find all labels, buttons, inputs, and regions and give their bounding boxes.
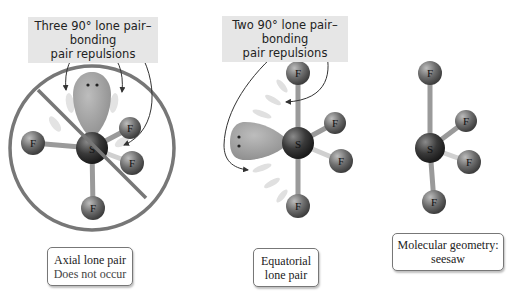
label-line: seesaw (393, 252, 503, 266)
seesaw-label: Molecular geometry: seesaw (392, 233, 504, 271)
seesaw-panel: F S F F F (415, 61, 481, 214)
title-line: Three 90° lone pair–bonding (32, 19, 154, 47)
svg-text:S: S (427, 143, 433, 155)
title-line: pair repulsions (226, 46, 344, 60)
label-line: lone pair (254, 268, 318, 282)
atom-f: F (418, 61, 442, 85)
svg-text:F: F (332, 117, 338, 129)
lone-pair-electron (86, 83, 89, 86)
title-line: pair repulsions (32, 47, 154, 61)
atom-s: S (282, 127, 314, 159)
lone-pair-electron (237, 135, 240, 138)
atom-f: F (455, 110, 477, 132)
svg-text:F: F (466, 156, 472, 168)
equatorial-panel: F S F F F (224, 48, 353, 218)
axial-panel: F S F F F (10, 48, 174, 230)
label-line: Equatorial (254, 254, 318, 268)
label-line: Axial lone pair (48, 253, 132, 267)
atom-s: S (76, 132, 108, 164)
equatorial-label: Equatorial lone pair (253, 248, 319, 287)
atom-s: S (415, 133, 445, 163)
atom-f: F (120, 151, 144, 175)
axial-label: Axial lone pair Does not occur (47, 247, 133, 286)
svg-text:S: S (295, 138, 301, 150)
atom-f: F (422, 190, 446, 214)
svg-text:F: F (463, 115, 469, 127)
lone-pair-lobe (230, 122, 290, 160)
svg-text:F: F (129, 157, 135, 169)
atom-f: F (21, 131, 45, 155)
svg-text:F: F (127, 122, 133, 134)
atom-f: F (81, 196, 105, 220)
svg-text:F: F (338, 155, 344, 167)
equatorial-title: Two 90° lone pair–bonding pair repulsion… (222, 16, 348, 62)
svg-text:F: F (90, 202, 96, 214)
atom-f: F (324, 112, 346, 134)
atom-f: F (329, 149, 353, 173)
axial-title: Three 90° lone pair–bonding pair repulsi… (28, 17, 158, 63)
label-line: Molecular geometry: (393, 238, 503, 252)
label-line: Does not occur (48, 267, 132, 281)
lone-pair-electron (95, 83, 98, 86)
atom-f: F (286, 61, 310, 85)
svg-text:F: F (295, 67, 301, 79)
svg-text:F: F (431, 196, 437, 208)
svg-text:F: F (427, 67, 433, 79)
lone-pair-electron (237, 144, 240, 147)
atom-f: F (457, 150, 481, 174)
svg-text:F: F (30, 137, 36, 149)
title-line: Two 90° lone pair–bonding (226, 18, 344, 46)
svg-text:F: F (295, 200, 301, 212)
atom-f: F (286, 194, 310, 218)
